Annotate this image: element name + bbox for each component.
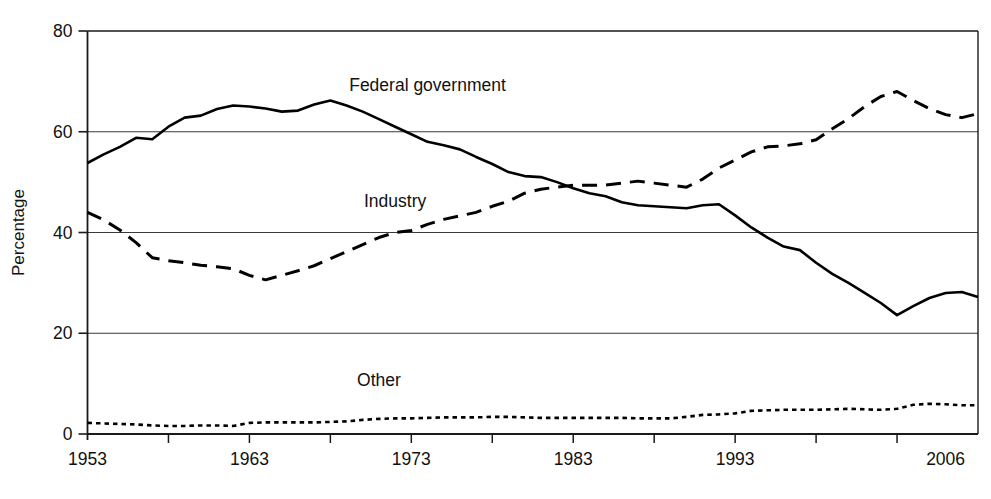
y-tick-label-60: 60 <box>53 122 73 142</box>
y-tick-label-20: 20 <box>53 323 73 343</box>
x-tick-label-1993: 1993 <box>716 449 755 469</box>
x-tick-label-1963: 1963 <box>230 449 269 469</box>
series-label-federal-government: Federal government <box>349 75 506 95</box>
series-lines <box>88 91 979 425</box>
x-tick-label-1953: 1953 <box>68 449 107 469</box>
x-axis-ticks: 195319631973198319932006 <box>68 434 965 469</box>
y-tick-label-0: 0 <box>63 424 73 444</box>
x-tick-label-1983: 1983 <box>554 449 593 469</box>
x-tick-label-1973: 1973 <box>392 449 431 469</box>
line-chart: 020406080 195319631973198319932006 Feder… <box>0 0 991 499</box>
series-line-other <box>88 404 979 426</box>
x-tick-label-2006: 2006 <box>926 449 965 469</box>
series-line-federal-government <box>88 101 979 316</box>
series-label-other: Other <box>357 370 401 390</box>
y-tick-label-40: 40 <box>53 223 73 243</box>
y-axis-ticks: 020406080 <box>53 21 87 444</box>
y-tick-label-80: 80 <box>53 21 73 41</box>
series-label-industry: Industry <box>364 191 426 211</box>
y-axis-title-text: Percentage <box>9 189 28 276</box>
series-line-industry <box>88 91 979 279</box>
plot-frame <box>88 31 979 440</box>
y-axis-title: Percentage <box>9 189 28 276</box>
chart-container: 020406080 195319631973198319932006 Feder… <box>0 0 991 499</box>
